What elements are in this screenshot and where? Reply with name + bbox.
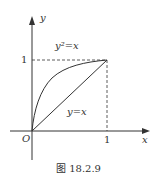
curve-label-line: y=x (67, 106, 87, 117)
figure-caption: 图 18.2.9 (0, 160, 157, 175)
y-axis-label: y (40, 12, 46, 23)
line-y-equals-x (32, 60, 107, 131)
y-axis-arrow-icon (29, 16, 35, 25)
curve-label-parabola: y²=x (55, 40, 79, 51)
diagram-canvas (0, 0, 157, 183)
origin-label: O (22, 133, 30, 144)
x-axis-label: x (142, 134, 148, 145)
y-tick-1: 1 (21, 54, 27, 65)
x-tick-1: 1 (104, 134, 110, 145)
